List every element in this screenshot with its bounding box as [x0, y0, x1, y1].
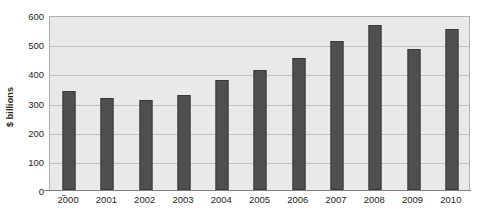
bar-slot — [165, 17, 203, 190]
bar-slot — [356, 17, 394, 190]
x-tick-label: 2004 — [211, 194, 232, 205]
bar-slot — [433, 17, 470, 190]
x-tick-label: 2010 — [440, 194, 461, 205]
bar[interactable] — [369, 25, 382, 190]
bar[interactable] — [292, 58, 305, 190]
y-tick-label: 600 — [17, 12, 44, 21]
bars-layer — [50, 17, 469, 190]
x-tick-label: 2006 — [287, 194, 308, 205]
bar[interactable] — [101, 98, 114, 190]
bar[interactable] — [63, 91, 76, 190]
x-axis-line — [44, 190, 471, 191]
x-tick-label: 2005 — [249, 194, 270, 205]
x-tick-label: 2007 — [325, 194, 346, 205]
bar[interactable] — [216, 80, 229, 190]
x-tick-label: 2000 — [58, 194, 79, 205]
bar-chart-figure: $ billions 0100200300400500600 200020012… — [0, 0, 483, 214]
y-axis-tick-labels: 0100200300400500600 — [17, 11, 44, 191]
bar[interactable] — [331, 41, 344, 190]
x-tick-label: 2001 — [96, 194, 117, 205]
x-axis-tick-labels: 2000200120022003200420052006200720082009… — [49, 194, 470, 210]
x-tick-label: 2009 — [402, 194, 423, 205]
y-tick-label: 300 — [17, 99, 44, 108]
bar[interactable] — [139, 100, 152, 190]
x-tick-label: 2002 — [134, 194, 155, 205]
bar-slot — [394, 17, 432, 190]
y-tick-label: 400 — [17, 70, 44, 79]
y-tick-label: 200 — [17, 128, 44, 137]
bar[interactable] — [177, 95, 190, 190]
bar-slot — [50, 17, 88, 190]
plot-area — [49, 16, 470, 191]
y-axis-title-label: $ billions — [5, 87, 15, 127]
y-tick-label: 100 — [17, 157, 44, 166]
bar[interactable] — [254, 70, 267, 190]
bar[interactable] — [407, 49, 420, 190]
y-tick-label: 0 — [17, 187, 44, 196]
x-tick-label: 2003 — [172, 194, 193, 205]
bar-slot — [241, 17, 279, 190]
bar-slot — [203, 17, 241, 190]
bar[interactable] — [445, 29, 458, 190]
y-tick-label: 500 — [17, 41, 44, 50]
bar-slot — [280, 17, 318, 190]
bar-slot — [127, 17, 165, 190]
bar-slot — [318, 17, 356, 190]
bar-slot — [88, 17, 126, 190]
x-tick-label: 2008 — [364, 194, 385, 205]
